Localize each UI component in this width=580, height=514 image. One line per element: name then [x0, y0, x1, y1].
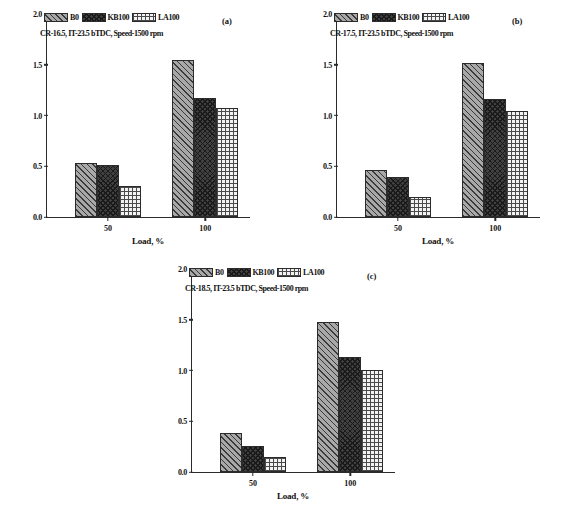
legend-b: B0 KB100 LA100: [334, 13, 472, 22]
x-tick-label: 100: [489, 217, 501, 233]
plot-area-a: 0.00.51.01.52.050100: [46, 14, 250, 218]
bar-kb100-load-50: [387, 177, 409, 217]
legend-swatch-kb100-icon: [82, 13, 106, 22]
x-axis-label-c: Load, %: [191, 491, 395, 501]
panel-tag-c: (c): [367, 271, 376, 281]
panel-tag-a: (a): [222, 16, 232, 26]
x-tick-label: 50: [249, 472, 257, 488]
panel-annotation-b: CR-17.5, IT-23.5 bTDC, Speed-1500 rpm: [330, 29, 453, 38]
bar-b0-load-100: [172, 60, 194, 217]
y-tick-label: 1.0: [178, 366, 192, 375]
x-tick-label: 50: [104, 217, 112, 233]
bar-kb100-load-50: [97, 165, 119, 217]
bar-b0-load-100: [317, 322, 339, 472]
legend-label-la100: LA100: [156, 13, 182, 22]
bar-kb100-load-100: [484, 99, 506, 217]
bar-b0-load-50: [75, 163, 97, 217]
legend-label-kb100: KB100: [251, 268, 278, 277]
plot-area-c: 0.00.51.01.52.050100: [191, 269, 395, 473]
legend-swatch-kb100-icon: [227, 268, 251, 277]
y-tick-label: 1.0: [323, 111, 337, 120]
legend-entry-kb100-b: KB100: [372, 13, 423, 22]
legend-swatch-b0-icon: [189, 268, 213, 277]
chart-panel-a: Smoke emission (BSN) 0.00.51.01.52.05010…: [0, 0, 290, 255]
bar-b0-load-100: [462, 63, 484, 217]
bar-la100-load-50: [409, 197, 431, 217]
legend-swatch-kb100-icon: [372, 13, 396, 22]
bar-la100-load-100: [216, 108, 238, 217]
chart-panel-c: Smoke emission (BSN) 0.00.51.01.52.05010…: [145, 255, 435, 505]
y-tick-label: 1.5: [33, 60, 47, 69]
x-tick-label: 100: [344, 472, 356, 488]
legend-entry-la100-c: LA100: [277, 268, 327, 277]
legend-label-b0: B0: [213, 268, 227, 277]
legend-label-kb100: KB100: [106, 13, 133, 22]
bar-kb100-load-100: [194, 98, 216, 217]
bar-la100-load-100: [506, 111, 528, 217]
legend-c: B0 KB100 LA100: [189, 268, 327, 277]
bar-kb100-load-100: [339, 357, 361, 472]
legend-label-la100: LA100: [446, 13, 472, 22]
bar-kb100-load-50: [242, 446, 264, 472]
y-tick-label: 1.0: [33, 111, 47, 120]
y-tick-label: 1.5: [323, 60, 337, 69]
x-axis-label-b: Load, %: [336, 236, 540, 246]
legend-label-la100: LA100: [301, 268, 327, 277]
legend-a: B0 KB100 LA100: [44, 13, 182, 22]
bar-b0-load-50: [365, 170, 387, 217]
legend-entry-b0-a: B0: [44, 13, 82, 22]
panel-tag-b: (b): [512, 16, 522, 26]
legend-entry-b0-c: B0: [189, 268, 227, 277]
bar-la100-load-50: [119, 186, 141, 217]
panel-annotation-a: CR-16.5, IT-23.5 bTDC, Speed-1500 rpm: [40, 29, 163, 38]
bar-la100-load-50: [264, 457, 286, 472]
legend-swatch-b0-icon: [334, 13, 358, 22]
plot-area-b: 0.00.51.01.52.050100: [336, 14, 540, 218]
chart-panel-b: Smoke emission (BSN) 0.00.51.01.52.05010…: [290, 0, 580, 255]
legend-entry-kb100-c: KB100: [227, 268, 278, 277]
legend-label-b0: B0: [68, 13, 82, 22]
x-tick-label: 100: [199, 217, 211, 233]
panel-annotation-c: CR-18.5, IT-23.5 bTDC, Speed-1500 rpm: [185, 284, 308, 293]
legend-entry-kb100-a: KB100: [82, 13, 133, 22]
bar-b0-load-50: [220, 433, 242, 472]
legend-swatch-la100-icon: [277, 268, 301, 277]
y-tick-label: 0.5: [178, 417, 192, 426]
x-axis-label-a: Load, %: [46, 236, 250, 246]
bar-la100-load-100: [361, 370, 383, 473]
y-tick-label: 0.0: [33, 213, 47, 222]
legend-swatch-la100-icon: [422, 13, 446, 22]
y-tick-label: 1.5: [178, 315, 192, 324]
legend-label-b0: B0: [358, 13, 372, 22]
legend-entry-b0-b: B0: [334, 13, 372, 22]
legend-label-kb100: KB100: [396, 13, 423, 22]
y-tick-label: 0.0: [178, 468, 192, 477]
legend-swatch-la100-icon: [132, 13, 156, 22]
figure-caption: [0, 506, 580, 514]
y-tick-label: 0.0: [323, 213, 337, 222]
y-tick-label: 0.5: [33, 162, 47, 171]
legend-entry-la100-b: LA100: [422, 13, 472, 22]
x-tick-label: 50: [394, 217, 402, 233]
legend-swatch-b0-icon: [44, 13, 68, 22]
y-tick-label: 0.5: [323, 162, 337, 171]
legend-entry-la100-a: LA100: [132, 13, 182, 22]
